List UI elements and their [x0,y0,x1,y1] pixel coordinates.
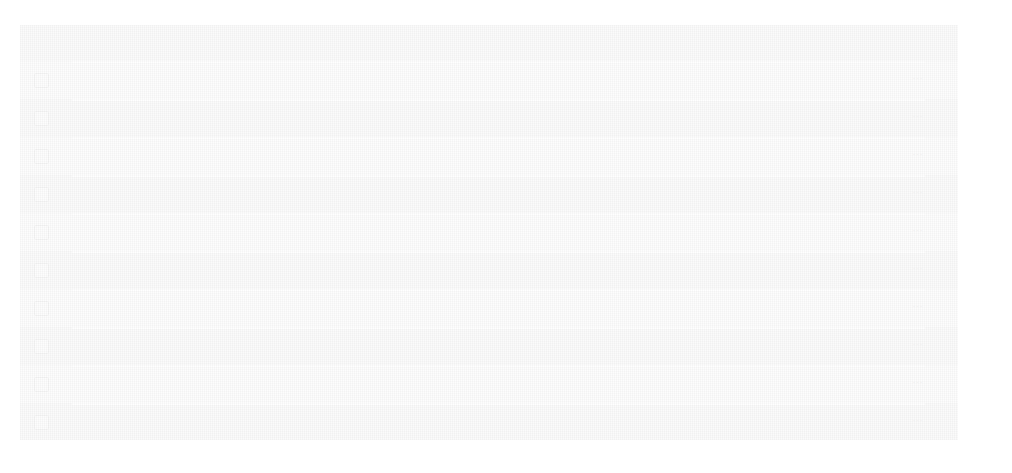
row-actions-cell[interactable]: ⋯ [888,225,948,239]
checkbox-icon[interactable] [34,415,49,430]
checkbox-icon[interactable] [34,301,49,316]
row-select-cell[interactable] [28,263,80,278]
checkbox-icon[interactable] [34,149,49,164]
table-row[interactable]: ⋯ [20,61,958,99]
row-actions-cell[interactable]: ⋯ [888,149,948,163]
overflow-menu-icon[interactable]: ⋯ [912,301,924,315]
table-row[interactable]: ⋯ [20,251,958,289]
checkbox-icon[interactable] [34,377,49,392]
row-select-cell[interactable] [28,187,80,202]
row-actions-cell[interactable]: ⋯ [888,111,948,125]
overflow-menu-icon[interactable]: ⋯ [912,111,924,125]
row-select-cell[interactable] [28,377,80,392]
row-select-cell[interactable] [28,111,80,126]
table-row[interactable]: ⋯ [20,365,958,403]
row-actions-cell[interactable]: ⋯ [888,339,948,353]
table-header-row [20,25,958,61]
overflow-menu-icon[interactable]: ⋯ [912,149,924,163]
row-actions-cell[interactable]: ⋯ [888,301,948,315]
overflow-menu-icon[interactable]: ⋯ [912,225,924,239]
row-select-cell[interactable] [28,301,80,316]
table-row[interactable]: ⋯ [20,137,958,175]
row-select-cell[interactable] [28,225,80,240]
overflow-menu-icon[interactable]: ⋯ [912,263,924,277]
checkbox-icon[interactable] [34,73,49,88]
row-actions-cell[interactable]: ⋯ [888,263,948,277]
row-select-cell[interactable] [28,339,80,354]
checkbox-icon[interactable] [34,111,49,126]
overflow-menu-icon[interactable]: ⋯ [912,377,924,391]
table-row[interactable]: ⋯ [20,403,958,440]
overflow-menu-icon[interactable]: ⋯ [912,187,924,201]
table-row[interactable]: ⋯ [20,175,958,213]
row-actions-cell[interactable]: ⋯ [888,377,948,391]
row-select-cell[interactable] [28,73,80,88]
table-row[interactable]: ⋯ [20,289,958,327]
overflow-menu-icon[interactable]: ⋯ [912,415,924,429]
overflow-menu-icon[interactable]: ⋯ [912,339,924,353]
checkbox-icon[interactable] [34,339,49,354]
checkbox-icon[interactable] [34,187,49,202]
row-actions-cell[interactable]: ⋯ [888,73,948,87]
table-row[interactable]: ⋯ [20,99,958,137]
checkbox-icon[interactable] [34,225,49,240]
table-row[interactable]: ⋯ [20,327,958,365]
table-row[interactable]: ⋯ [20,213,958,251]
row-select-cell[interactable] [28,415,80,430]
overflow-menu-icon[interactable]: ⋯ [912,73,924,87]
checkbox-icon[interactable] [34,263,49,278]
row-select-cell[interactable] [28,149,80,164]
row-actions-cell[interactable]: ⋯ [888,187,948,201]
row-actions-cell[interactable]: ⋯ [888,415,948,429]
content-panel: ⋯ ⋯ ⋯ ⋯ ⋯ ⋯ [20,25,958,440]
